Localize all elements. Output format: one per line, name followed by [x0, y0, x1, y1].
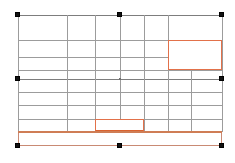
handle-top-center[interactable]	[117, 12, 122, 17]
grid-col-line-4	[120, 15, 121, 132]
handle-top-right[interactable]	[219, 12, 224, 17]
highlighted-cell-top-right[interactable]	[168, 40, 222, 70]
grid-col-line-2	[67, 15, 68, 132]
handle-top-left[interactable]	[15, 12, 20, 17]
grid-col-line-8	[222, 15, 223, 132]
handle-bottom-left[interactable]	[15, 143, 20, 148]
rotation-center-dot	[119, 78, 121, 80]
handle-middle-left[interactable]	[15, 76, 20, 81]
handle-bottom-right[interactable]	[219, 143, 224, 148]
grid-col-line-3	[95, 15, 96, 132]
grid-col-line-5	[144, 15, 145, 132]
grid-col-line-7	[191, 70, 192, 132]
table-object[interactable]	[18, 15, 222, 146]
handle-bottom-center[interactable]	[117, 143, 122, 148]
footer-row-top-accent	[18, 131, 222, 133]
handle-middle-right[interactable]	[219, 76, 224, 81]
grid-col-line-6	[168, 15, 169, 132]
drawing-canvas[interactable]	[0, 0, 235, 163]
grid-col-line-1	[18, 15, 19, 132]
